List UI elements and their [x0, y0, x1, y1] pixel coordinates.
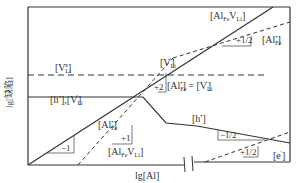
- y-axis-label: lg[缺陷]: [2, 77, 15, 108]
- slope-label-minus-half: −1/2: [220, 131, 237, 140]
- label-al-fe-top-right: [AlFe•]: [262, 34, 281, 46]
- label-li-i-v-li: [li•],[VLi′]: [50, 94, 81, 106]
- axis-break-mark-1: [184, 157, 185, 172]
- al-fe-solid-line: [28, 7, 273, 165]
- axis-break-mark-2: [192, 156, 193, 171]
- slope-label-plus-half-bottom: +1/2: [240, 148, 257, 157]
- slope-label-half-top: +1/2: [236, 36, 253, 45]
- label-v-li-prime-mid: [VLi′]: [160, 57, 175, 69]
- label-h-dot: [h•]: [192, 113, 206, 124]
- label-e-prime: [e′]: [273, 150, 285, 161]
- slope-label-plus1: +1: [121, 134, 131, 143]
- label-al-fe-left: [AlFe•]: [98, 119, 117, 131]
- label-al-fe-v-li-top: [AlFeVLi]: [210, 11, 245, 22]
- x-axis-label: lg[Al]: [135, 170, 159, 181]
- slope-label-minus1: −1: [61, 144, 71, 153]
- slope-label-plus2: +2: [154, 83, 164, 92]
- label-al-fe-v-li-bottom: [AlFeVLi]: [108, 147, 143, 158]
- label-v-li-neutral: [VLix]: [55, 62, 71, 74]
- label-equality: [AlFe•] = [VLi′]: [167, 80, 211, 92]
